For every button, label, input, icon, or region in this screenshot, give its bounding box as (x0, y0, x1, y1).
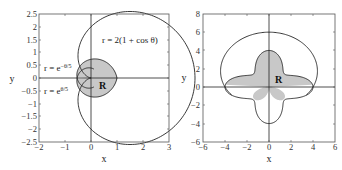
tick-label: −0.5 (22, 86, 37, 96)
tick-label: 2 (141, 142, 145, 152)
tick-label: 4 (196, 46, 201, 56)
tick-label: 0 (267, 142, 271, 152)
tick-label: 3 (167, 142, 171, 152)
right-x-axis-label: x (267, 153, 272, 164)
tick-label: 0.5 (26, 60, 37, 70)
cardioid-annotation: r = 2(1 + cos θ) (102, 35, 158, 45)
tick-label: 2 (196, 64, 200, 74)
tick-label: 2 (33, 22, 37, 32)
left-x-tick-labels: −2 −1 0 1 2 3 (34, 142, 171, 152)
tick-label: −1 (60, 142, 69, 152)
tick-label: 4 (311, 142, 316, 152)
tick-label: 0 (89, 142, 93, 152)
left-y-axis-label: y (10, 73, 15, 84)
tick-label: −2 (242, 142, 251, 152)
spiral-neg-annotation: r = e−θ/5 (44, 63, 72, 73)
tick-label: 6 (196, 27, 200, 37)
tick-label: −4 (191, 119, 201, 129)
tick-label: −1 (28, 99, 37, 109)
tick-label: 1 (33, 47, 37, 57)
right-y-axis-label: y (182, 72, 187, 83)
right-plot: −6 −4 −2 0 2 4 6 8 6 4 2 0 −2 −4 −6 x y … (182, 9, 338, 164)
ann-base: r = e (44, 63, 61, 73)
tick-label: 6 (333, 142, 337, 152)
left-x-axis-label: x (102, 153, 107, 164)
tick-label: −4 (220, 142, 230, 152)
left-region-label: R (99, 80, 107, 91)
right-region-label: R (275, 74, 283, 85)
figure: −2 −1 0 1 2 3 2.5 2 1.5 1 0.5 0 −0.5 −1 … (0, 0, 342, 170)
tick-label: −1.5 (22, 111, 37, 121)
ann-exp: θ/5 (61, 86, 69, 92)
tick-label: 1 (115, 142, 119, 152)
tick-label: −2 (28, 124, 37, 134)
right-y-tick-labels: 8 6 4 2 0 −2 −4 −6 (191, 9, 201, 147)
tick-label: 0 (33, 73, 37, 83)
tick-label: 1.5 (26, 35, 37, 45)
right-x-tick-labels: −6 −4 −2 0 2 4 6 (198, 142, 337, 152)
tick-label: −2.5 (22, 137, 37, 147)
tick-label: 2.5 (26, 9, 37, 19)
tick-label: 8 (196, 9, 200, 19)
ann-exp: −θ/5 (61, 63, 72, 69)
left-plot: −2 −1 0 1 2 3 2.5 2 1.5 1 0.5 0 −0.5 −1 … (10, 9, 196, 164)
left-y-tick-labels: 2.5 2 1.5 1 0.5 0 −0.5 −1 −1.5 −2 −2.5 (22, 9, 37, 147)
tick-label: −6 (191, 137, 200, 147)
tick-label: 2 (289, 142, 293, 152)
spiral-pos-annotation: r = eθ/5 (44, 86, 68, 96)
ann-base: r = e (44, 86, 61, 96)
tick-label: 0 (196, 82, 200, 92)
tick-label: −2 (191, 100, 200, 110)
